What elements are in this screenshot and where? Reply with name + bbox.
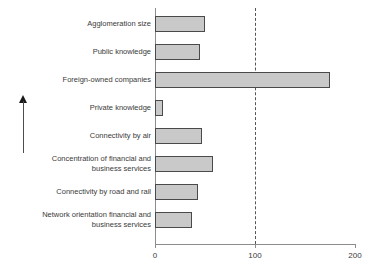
bar-chart: Agglomeration sizePublic knowledgeForeig… bbox=[0, 0, 374, 270]
bar bbox=[155, 128, 202, 144]
category-label-line: Private knowledge bbox=[8, 103, 151, 114]
x-axis-tick-label: 200 bbox=[348, 251, 361, 260]
category-label: Public knowledge bbox=[8, 47, 151, 58]
category-label-line: Connectivity by road and rail bbox=[8, 187, 151, 198]
category-label: Agglomeration size bbox=[8, 19, 151, 30]
bar bbox=[155, 156, 213, 172]
category-label-line: Foreign-owned companies bbox=[8, 75, 151, 86]
reference-line bbox=[255, 8, 256, 244]
bar bbox=[155, 72, 330, 88]
category-label: Foreign-owned companies bbox=[8, 75, 151, 86]
category-label: Connectivity by air bbox=[8, 131, 151, 142]
bar bbox=[155, 44, 200, 60]
x-axis-tick bbox=[255, 244, 256, 248]
bar bbox=[155, 100, 163, 116]
category-label: Concentration of financial andbusiness s… bbox=[8, 154, 151, 175]
plot-area: 0100200 bbox=[155, 8, 355, 244]
category-label-line: Public knowledge bbox=[8, 47, 151, 58]
category-label-line: Concentration of financial and bbox=[8, 154, 151, 165]
x-axis-tick-label: 100 bbox=[248, 251, 261, 260]
x-axis-tick bbox=[355, 244, 356, 248]
category-label: Network orientation financial andbusines… bbox=[8, 210, 151, 231]
category-label-line: business services bbox=[8, 164, 151, 175]
category-label-line: Agglomeration size bbox=[8, 19, 151, 30]
category-label-line: Connectivity by air bbox=[8, 131, 151, 142]
bar bbox=[155, 184, 198, 200]
category-label: Private knowledge bbox=[8, 103, 151, 114]
x-axis-tick bbox=[155, 244, 156, 248]
category-label: Connectivity by road and rail bbox=[8, 187, 151, 198]
x-axis-tick-label: 0 bbox=[153, 251, 157, 260]
category-label-line: Network orientation financial and bbox=[8, 210, 151, 221]
bar bbox=[155, 212, 192, 228]
bar bbox=[155, 16, 205, 32]
category-label-line: business services bbox=[8, 220, 151, 231]
